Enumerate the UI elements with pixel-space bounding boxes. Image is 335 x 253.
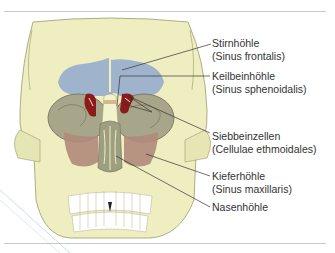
label-name: Nasenhöhle: [212, 201, 268, 214]
left-orbit: [48, 94, 108, 142]
label-nasenhoehle: Nasenhöhle: [212, 201, 268, 214]
label-latin: (Sinus frontalis): [212, 50, 285, 63]
label-name: Siebbeinzellen: [212, 130, 316, 143]
label-name: Keilbeinhöhle: [212, 70, 307, 83]
label-latin: (Cellulae ethmoidales): [212, 143, 316, 156]
label-keilbeinhoehle: Keilbeinhöhle (Sinus sphenoidalis): [212, 70, 307, 96]
label-kieferhoehle: Kieferhöhle (Sinus maxillaris): [212, 170, 292, 196]
label-name: Stirnhöhle: [212, 37, 285, 50]
label-name: Kieferhöhle: [212, 170, 292, 183]
label-latin: (Sinus maxillaris): [212, 183, 292, 196]
label-siebbeinzellen: Siebbeinzellen (Cellulae ethmoidales): [212, 130, 316, 156]
label-stirnhoehle: Stirnhöhle (Sinus frontalis): [212, 37, 285, 63]
label-latin: (Sinus sphenoidalis): [212, 83, 307, 96]
bottom-divider: [4, 243, 326, 244]
